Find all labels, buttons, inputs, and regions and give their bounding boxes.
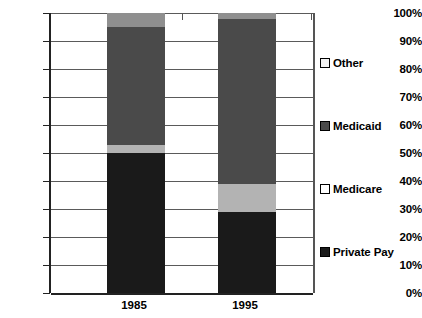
legend-label-medicare: Medicare <box>333 183 382 195</box>
bar-segment-private-pay[interactable] <box>107 153 165 293</box>
x-axis-category-label-1995: 1995 <box>232 299 258 311</box>
legend-label-private-pay: Private Pay <box>333 246 394 258</box>
bar-segment-medicaid[interactable] <box>218 19 276 184</box>
legend-label-medicaid: Medicaid <box>333 120 381 132</box>
y-tick-mark <box>43 265 50 266</box>
legend-swatch-other-icon <box>320 58 330 68</box>
legend-item-medicaid[interactable]: Medicaid <box>320 120 381 132</box>
legend-item-private-pay[interactable]: Private Pay <box>320 246 394 258</box>
chart-legend: Other Medicaid Medicare Private Pay <box>320 13 420 293</box>
bar-segment-other[interactable] <box>107 13 165 27</box>
gridline-0 <box>51 293 313 295</box>
y-tick-mark <box>43 293 50 294</box>
legend-item-other[interactable]: Other <box>320 57 363 69</box>
chart-container: 100% 90% 80% 70% 60% 50% 40% 30% 20% 10%… <box>0 0 422 318</box>
bar-segment-medicare[interactable] <box>107 145 165 153</box>
bar-segment-other[interactable] <box>218 13 276 19</box>
plot-area <box>49 13 315 293</box>
legend-swatch-medicare-icon <box>320 184 330 194</box>
legend-swatch-private-pay-icon <box>320 247 330 257</box>
y-tick-mark <box>43 41 50 42</box>
y-tick-mark <box>43 181 50 182</box>
y-tick-mark <box>43 97 50 98</box>
x-axis-category-label-1985: 1985 <box>121 299 147 311</box>
y-tick-mark <box>43 13 50 14</box>
x-tick-mark <box>182 13 183 20</box>
x-tick-mark <box>311 13 312 20</box>
bar-segment-private-pay[interactable] <box>218 212 276 293</box>
bar-segment-medicare[interactable] <box>218 184 276 212</box>
legend-label-other: Other <box>333 57 363 69</box>
bar-segment-medicaid[interactable] <box>107 27 165 145</box>
legend-item-medicare[interactable]: Medicare <box>320 183 382 195</box>
legend-swatch-medicaid-icon <box>320 121 330 131</box>
y-tick-mark <box>43 125 50 126</box>
y-tick-mark <box>43 153 50 154</box>
y-tick-mark <box>43 69 50 70</box>
y-tick-mark <box>43 209 50 210</box>
y-tick-mark <box>43 237 50 238</box>
